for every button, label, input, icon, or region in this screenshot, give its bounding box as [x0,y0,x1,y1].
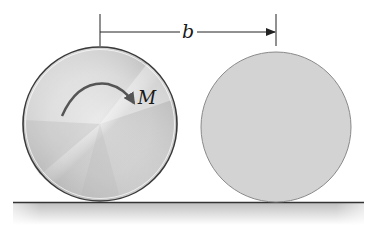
dimension-label: b [182,20,194,42]
ground [13,203,364,226]
moment-label: M [137,87,157,108]
right-disk [201,52,351,202]
diagram-canvas: b M [0,0,380,230]
dimension-b: b [100,14,276,46]
left-disk: M [23,47,177,201]
